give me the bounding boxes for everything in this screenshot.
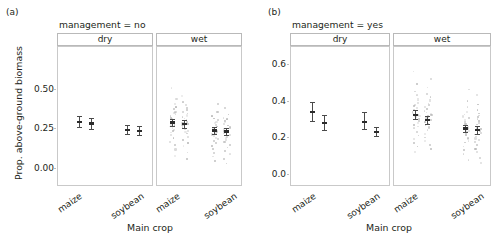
data-point bbox=[174, 103, 176, 105]
data-point bbox=[417, 102, 419, 104]
mean-marker bbox=[374, 131, 379, 133]
mean-marker bbox=[322, 122, 327, 124]
data-point bbox=[478, 139, 480, 141]
data-point bbox=[229, 153, 231, 155]
error-bar-cap-upper bbox=[322, 115, 327, 116]
panel-b-letter: (b) bbox=[268, 7, 281, 17]
data-point bbox=[465, 135, 466, 136]
data-point bbox=[216, 111, 218, 113]
data-point bbox=[417, 126, 419, 128]
ytickmark-b-3 bbox=[287, 174, 289, 175]
error-bar-cap-upper bbox=[77, 116, 82, 117]
panel-a-title: management = no bbox=[59, 19, 146, 30]
data-point bbox=[170, 134, 172, 136]
data-point bbox=[186, 158, 188, 160]
error-bar-cap-lower bbox=[463, 132, 468, 133]
data-point bbox=[229, 144, 231, 146]
data-point bbox=[413, 127, 415, 129]
data-point bbox=[424, 140, 426, 142]
mean-marker bbox=[463, 127, 468, 129]
data-point bbox=[186, 109, 188, 111]
error-bar-cap-lower bbox=[362, 129, 367, 130]
data-point bbox=[414, 151, 416, 153]
data-point bbox=[182, 139, 184, 141]
data-point bbox=[214, 160, 216, 162]
data-point bbox=[467, 106, 469, 108]
data-point bbox=[476, 151, 478, 153]
ytick-b-1: 0.4 bbox=[250, 96, 286, 106]
data-point bbox=[223, 123, 225, 125]
data-point bbox=[226, 163, 227, 164]
data-point bbox=[418, 115, 420, 117]
mean-marker bbox=[362, 121, 367, 123]
y-axis-label: Prop. above-ground biomass bbox=[13, 46, 24, 180]
error-bar-cap-lower bbox=[77, 127, 82, 128]
panel-a: (a) management = no dry wet 0.50 0.25 0.… bbox=[0, 0, 252, 244]
data-point bbox=[428, 126, 430, 128]
xtick-b-wet-soybean: soybean bbox=[441, 191, 486, 227]
data-point bbox=[477, 104, 479, 106]
error-bar-cap-upper bbox=[374, 127, 379, 128]
error-bar-cap-lower bbox=[89, 129, 94, 130]
error-bar-cap-lower bbox=[413, 119, 418, 120]
error-bar-cap-upper bbox=[463, 125, 468, 126]
data-point bbox=[468, 159, 470, 161]
strip-b-wet: wet bbox=[393, 33, 491, 46]
data-point bbox=[174, 155, 176, 157]
data-point bbox=[463, 146, 465, 148]
ytickmark-a-1 bbox=[54, 128, 56, 129]
data-point bbox=[429, 101, 431, 103]
data-point bbox=[228, 114, 230, 116]
data-point bbox=[429, 144, 431, 146]
error-bar-cap-upper bbox=[475, 126, 480, 127]
mean-marker bbox=[224, 130, 229, 132]
data-point bbox=[185, 104, 187, 106]
data-point bbox=[217, 138, 219, 140]
data-point bbox=[175, 106, 177, 108]
data-point bbox=[480, 132, 482, 134]
data-point bbox=[424, 137, 426, 139]
data-point bbox=[463, 153, 465, 155]
mean-marker bbox=[89, 122, 94, 124]
data-point bbox=[223, 141, 225, 143]
data-point bbox=[468, 117, 470, 119]
strip-b-dry: dry bbox=[290, 33, 390, 46]
error-bar-cap-upper bbox=[362, 112, 367, 113]
data-point bbox=[173, 137, 175, 139]
panel-b: (b) management = yes dry wet 0.6 0.4 0.2… bbox=[252, 0, 497, 244]
error-bar-cap-upper bbox=[125, 125, 130, 126]
data-point bbox=[430, 96, 431, 97]
xtick-a-dry-maize: maize bbox=[47, 191, 84, 221]
ytick-b-0: 0.6 bbox=[250, 59, 286, 69]
panel-b-title: management = yes bbox=[292, 19, 383, 30]
xtick-b-dry-maize: maize bbox=[281, 191, 318, 221]
data-point bbox=[464, 142, 465, 143]
data-point bbox=[417, 146, 419, 148]
mean-marker bbox=[125, 129, 130, 131]
error-bar-cap-upper bbox=[89, 118, 94, 119]
data-point bbox=[174, 148, 176, 150]
strip-a-wet-label: wet bbox=[191, 35, 207, 44]
data-point bbox=[418, 135, 419, 136]
data-point bbox=[217, 103, 219, 105]
panel-a-letter: (a) bbox=[6, 7, 19, 17]
mean-marker bbox=[170, 121, 175, 123]
plot-area-b-dry bbox=[290, 46, 390, 186]
data-point bbox=[211, 145, 213, 147]
data-point bbox=[215, 142, 217, 144]
error-bar-cap-lower bbox=[224, 135, 229, 136]
data-point bbox=[416, 131, 418, 133]
plot-area-b-wet bbox=[393, 46, 491, 186]
data-point bbox=[169, 141, 171, 143]
ytick-b-3: 0.0 bbox=[250, 169, 286, 179]
error-bar-cap-upper bbox=[212, 127, 217, 128]
data-point bbox=[428, 104, 430, 106]
data-point bbox=[213, 118, 215, 120]
plot-area-a-wet bbox=[156, 46, 242, 186]
data-point bbox=[187, 136, 189, 138]
data-point bbox=[417, 122, 419, 124]
data-point bbox=[183, 145, 184, 146]
data-point bbox=[463, 149, 465, 151]
data-point bbox=[173, 108, 175, 110]
data-point bbox=[187, 142, 188, 143]
